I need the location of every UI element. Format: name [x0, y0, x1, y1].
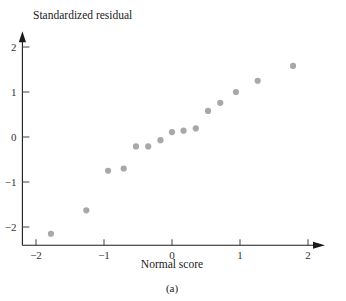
x-tick-label-0: −2: [30, 249, 42, 261]
figure-panel-a: −2−1012−2−1012 Standardized residual Nor…: [0, 0, 346, 301]
data-points: [48, 63, 296, 237]
data-point: [255, 78, 261, 84]
data-point: [290, 63, 296, 69]
figure-caption: (a): [166, 282, 179, 295]
x-axis-title: Normal score: [141, 258, 203, 270]
y-tick-label-2: 0: [11, 131, 17, 143]
data-point: [180, 128, 186, 134]
normal-probability-plot: −2−1012−2−1012 Standardized residual Nor…: [0, 0, 346, 301]
axes: [19, 31, 325, 249]
y-axis-arrow-icon: [19, 31, 26, 42]
data-point: [205, 108, 211, 114]
data-point: [233, 89, 239, 95]
data-point: [157, 137, 163, 143]
y-tick-label-1: −1: [5, 176, 17, 188]
y-tick-label-4: 2: [11, 41, 17, 53]
data-point: [217, 100, 223, 106]
data-point: [48, 231, 54, 237]
x-tick-label-1: −1: [98, 249, 110, 261]
y-tick-label-0: −2: [5, 221, 17, 233]
data-point: [121, 165, 127, 171]
x-axis-arrow-icon: [313, 242, 325, 249]
data-point: [83, 207, 89, 213]
y-tick-label-3: 1: [11, 86, 17, 98]
data-point: [145, 143, 151, 149]
x-tick-label-3: 1: [237, 249, 243, 261]
data-point: [105, 168, 111, 174]
axis-tick-labels: −2−1012−2−1012: [5, 41, 311, 261]
x-tick-label-4: 2: [305, 249, 311, 261]
axis-ticks: [22, 47, 308, 245]
data-point: [193, 125, 199, 131]
data-point: [133, 143, 139, 149]
data-point: [169, 129, 175, 135]
y-axis-title: Standardized residual: [33, 9, 132, 21]
